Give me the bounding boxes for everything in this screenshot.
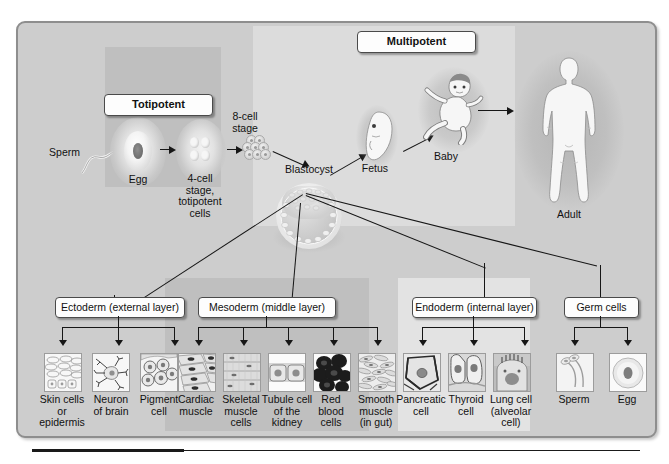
endo-arrow — [521, 340, 529, 346]
connector-germ-drop — [600, 265, 601, 297]
baby-icon — [423, 71, 487, 145]
ecto-stem — [118, 316, 119, 327]
arrow-egg-to-4cell — [169, 146, 176, 154]
cell-label-skin-cells: Skin cells or epidermis — [36, 394, 88, 429]
diagram-canvas: Sperm Egg 4-cell stage, totipotent cells… — [0, 0, 669, 464]
connector-endoderm-drop — [484, 263, 485, 297]
arrow-baby-to-adult — [478, 110, 508, 111]
meso-branch — [333, 327, 334, 341]
cell-label-egg: Egg — [601, 394, 653, 406]
fetus-icon — [363, 109, 395, 165]
baby-label: Baby — [422, 151, 470, 163]
ecto-branch — [118, 327, 119, 341]
egg-nucleus — [133, 143, 143, 159]
cell-label-lung-cell: Lung cell (alveolar cell) — [484, 394, 538, 429]
potency-label-totipotent[interactable]: Totipotent — [104, 94, 213, 116]
diagram-frame: Sperm Egg 4-cell stage, totipotent cells… — [16, 21, 657, 438]
endo-branch — [422, 327, 423, 341]
meso-arrow — [330, 340, 338, 346]
ecto-arrow — [59, 340, 67, 346]
endo-branch — [473, 327, 474, 341]
adult-label: Adult — [543, 209, 595, 221]
footer-rule-thin — [184, 450, 640, 451]
meso-arrow — [285, 340, 293, 346]
four-cell-blastomere — [201, 150, 210, 161]
germ-arrow — [571, 340, 579, 346]
germ-stem — [600, 316, 601, 327]
arrow-4cell-to-8cell-shaft — [227, 149, 237, 150]
tubule-cell-icon — [268, 353, 306, 392]
cardiac-muscle-icon — [178, 353, 216, 392]
germ-bus — [574, 327, 628, 328]
eight-cell-label: 8-cell stage — [221, 111, 269, 134]
ecto-arrow — [115, 340, 123, 346]
pigment-cell-icon — [140, 353, 178, 392]
cell-label-neuron: Neuron of brain — [85, 394, 137, 417]
endo-branch — [524, 327, 525, 341]
sperm-label: Sperm — [32, 147, 80, 159]
germ-layer-label-germ-cells[interactable]: Germ cells — [564, 297, 639, 318]
arrow-adult-head — [507, 107, 514, 115]
cell-label-sperm: Sperm — [548, 394, 600, 406]
ecto-branch — [62, 327, 63, 341]
endo-arrow — [470, 340, 478, 346]
germ-branch — [627, 327, 628, 341]
arrow-egg-to-4cell-shaft — [160, 149, 170, 150]
fetus-label: Fetus — [350, 163, 400, 175]
meso-branch — [243, 327, 244, 341]
sperm-icon — [556, 353, 594, 392]
meso-arrow — [195, 340, 203, 346]
ecto-branch — [174, 327, 175, 341]
germ-arrow — [624, 340, 632, 346]
endo-arrow — [419, 340, 427, 346]
germ-branch — [574, 327, 575, 341]
skeletal-muscle-icon — [223, 353, 261, 392]
germ-layer-label-endoderm[interactable]: Endoderm (internal layer) — [412, 297, 537, 318]
smooth-muscle-icon — [358, 353, 396, 392]
thyroid-cell-icon — [448, 353, 486, 392]
meso-branch — [377, 327, 378, 341]
ecto-arrow — [171, 340, 179, 346]
red-blood-cell-icon — [313, 353, 351, 392]
potency-label-multipotent[interactable]: Multipotent — [357, 31, 476, 53]
epithelium-icon — [44, 353, 82, 392]
germ-layer-label-ectoderm[interactable]: Ectoderm (external layer) — [55, 297, 185, 318]
pancreatic-cell-icon — [403, 353, 441, 392]
alveolar-cell-icon — [493, 353, 531, 392]
meso-branch — [198, 327, 199, 341]
egg-label: Egg — [116, 174, 160, 186]
footer-rule-thick — [32, 449, 184, 452]
blastocyst-label: Blastocyst — [270, 164, 348, 176]
egg-icon — [609, 353, 647, 392]
germ-layer-label-mesoderm[interactable]: Mesoderm (middle layer) — [198, 297, 336, 318]
four-cell-blastomere — [190, 137, 199, 148]
meso-arrow — [240, 340, 248, 346]
meso-branch — [288, 327, 289, 341]
neuron-icon — [92, 353, 130, 392]
four-cell-blastomere — [201, 137, 210, 148]
adult-icon — [532, 55, 606, 207]
meso-stem — [266, 316, 267, 327]
endo-stem — [473, 316, 474, 327]
meso-arrow — [374, 340, 382, 346]
four-cell-label: 4-cell stage, totipotent cells — [170, 173, 230, 219]
four-cell-blastomere — [190, 150, 199, 161]
